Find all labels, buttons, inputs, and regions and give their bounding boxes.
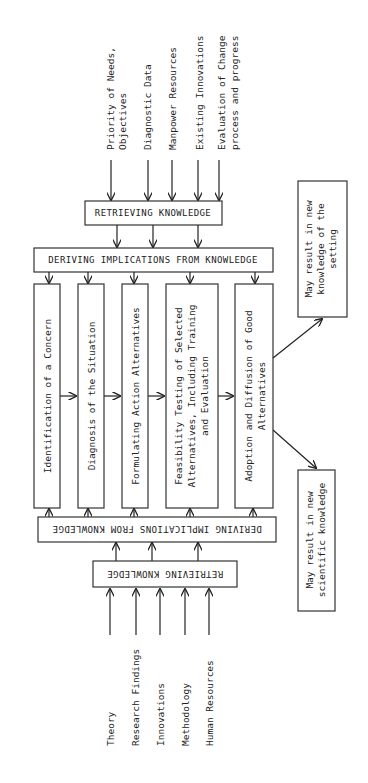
retrieving-to-deriving-arrows [117, 225, 198, 247]
bottom-input-theory: Theory [105, 711, 116, 746]
top-input-manpower: Manpower Resources [167, 47, 178, 150]
stage-label: Alternatives [256, 362, 267, 431]
bottom-input-labels: Theory Research Findings Innovations Met… [105, 649, 215, 746]
bottom-retrieving-label: RETRIEVING KNOWLEDGE [107, 569, 223, 579]
bottom-deriving-label: DERIVING IMPLICATIONS FROM KNOWLEDGE [52, 524, 261, 534]
top-input-labels: Priority of Needs, Objectives Diagnostic… [105, 35, 240, 150]
outcome-scientific: May result in new scientific knowledge [298, 470, 335, 611]
stage-feasibility: Feasibility Testing of Selected Alternat… [166, 284, 218, 508]
stage-adoption: Adoption and Diffusion of Good Alternati… [235, 284, 273, 508]
stage-label: Feasibility Testing of Selected [173, 307, 184, 484]
stage-diagnosis: Diagnosis of the Situation [78, 284, 104, 508]
stage-label: Alternatives, Including Training [186, 304, 197, 487]
outcome-setting: May result in new knowledge of the setti… [298, 181, 347, 317]
bottom-input-methodology: Methodology [180, 683, 191, 746]
stage-label: Diagnosis of the Situation [86, 322, 97, 471]
top-deriving-label: DERIVING IMPLICATIONS FROM KNOWLEDGE [48, 255, 257, 265]
top-input-priority: Priority of Needs, [105, 47, 116, 150]
arrow-to-setting [273, 319, 322, 358]
top-input-evaluation: Evaluation of Change [216, 35, 227, 150]
stage-formulating: Formulating Action Alternatives [122, 284, 148, 508]
bottom-deriving-to-stage-arrows [49, 509, 253, 517]
stage-box [235, 284, 273, 508]
bottom-input-innovations: Innovations [155, 683, 166, 746]
deriving-to-stage-arrows [49, 272, 255, 283]
top-retrieving-label: RETRIEVING KNOWLEDGE [95, 208, 211, 218]
stage-label: and Evaluation [199, 356, 210, 436]
top-input-arrows [111, 160, 219, 200]
stage-label: Formulating Action Alternatives [130, 307, 141, 484]
outcome-label: knowledge of the [315, 203, 326, 295]
bottom-input-research-findings: Research Findings [130, 649, 141, 746]
bottom-retrieving-to-deriving-arrows [116, 543, 198, 561]
stage-identification: Identification of a Concern [34, 284, 60, 508]
stage-label: Identification of a Concern [42, 319, 53, 473]
outcome-label: May result in new [304, 491, 315, 589]
outcome-label: setting [327, 229, 338, 269]
outcome-label: May result in new [303, 200, 314, 298]
diagram-canvas: Priority of Needs, Objectives Diagnostic… [0, 0, 368, 783]
stage-label: Adoption and Diffusion of Good [243, 310, 254, 482]
top-input-objectives: Objectives [117, 93, 128, 150]
top-input-diagnostic-data: Diagnostic Data [142, 64, 153, 150]
bottom-input-human-resources: Human Resources [204, 660, 215, 746]
top-input-process: process and progress [229, 36, 240, 150]
outcome-label: scientific knowledge [316, 483, 327, 598]
top-input-existing-innovations: Existing Innovations [194, 36, 205, 150]
arrow-to-scientific [273, 430, 316, 468]
bottom-input-arrows [110, 589, 209, 635]
